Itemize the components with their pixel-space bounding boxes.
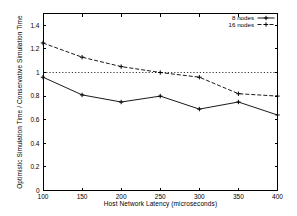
x-tick-label: 250 [155, 193, 166, 200]
y-tick-label: 1.2 [30, 45, 39, 52]
series-16-nodes [41, 41, 280, 99]
legend: 8 nodes16 nodes [229, 14, 275, 28]
series-8-nodes [41, 75, 280, 117]
y-tick-label: 1.4 [30, 22, 39, 29]
plot-border [43, 14, 278, 191]
y-tick-label: 0.2 [30, 163, 39, 170]
x-tick-label: 400 [272, 193, 283, 200]
y-tick-label: 0.8 [30, 92, 39, 99]
x-axis-ticks: 100150200250300350400 [38, 14, 284, 201]
x-axis-title: Host Network Latency (microseconds) [43, 200, 278, 207]
chart: Optimistic Simulation Time / Conservativ… [0, 0, 297, 216]
legend-label: 16 nodes [229, 21, 254, 28]
x-tick-label: 150 [77, 193, 88, 200]
x-tick-label: 350 [233, 193, 244, 200]
y-tick-label: 0 [36, 187, 40, 194]
legend-entry-16-nodes: 16 nodes [229, 21, 275, 28]
plot-area: 10015020025030035040000.20.40.60.811.21.… [0, 0, 297, 216]
y-tick-label: 1 [36, 69, 40, 76]
x-tick-label: 300 [194, 193, 205, 200]
x-tick-label: 100 [38, 193, 49, 200]
y-tick-label: 0.4 [30, 140, 39, 147]
x-tick-label: 200 [116, 193, 127, 200]
y-tick-label: 0.6 [30, 116, 39, 123]
y-axis-ticks: 00.20.40.60.811.21.4 [30, 22, 277, 194]
